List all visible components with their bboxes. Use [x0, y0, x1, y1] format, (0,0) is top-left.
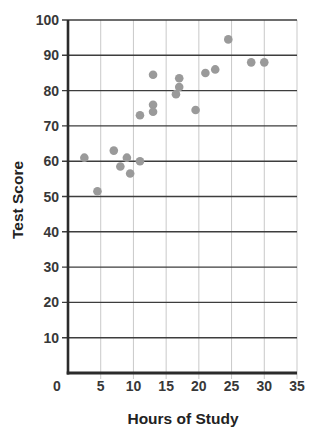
data-point [136, 157, 145, 166]
data-point [201, 69, 210, 78]
x-tick-label: 5 [97, 378, 105, 394]
data-point [93, 187, 102, 196]
data-point [211, 65, 220, 74]
y-tick-label: 20 [43, 294, 59, 310]
y-tick-label: 60 [43, 153, 59, 169]
data-point [149, 107, 158, 116]
y-axis-title: Test Score [9, 161, 27, 239]
x-tick-label: 10 [126, 378, 142, 394]
x-tick-label: 25 [224, 378, 240, 394]
data-point [136, 111, 145, 120]
y-tick-label: 90 [43, 47, 59, 63]
y-tick-label: 10 [43, 330, 59, 346]
data-point [126, 169, 135, 178]
data-point [175, 83, 184, 92]
y-tick-label: 50 [43, 189, 59, 205]
scatter-chart-figure: 10203040506070809010005101520253035 Test… [0, 0, 311, 441]
data-point [123, 153, 132, 162]
x-tick-label: 30 [256, 378, 272, 394]
y-tick-label: 30 [43, 259, 59, 275]
data-point [149, 70, 158, 79]
x-tick-label: 0 [53, 378, 61, 394]
data-point [80, 153, 89, 162]
y-tick-label: 40 [43, 224, 59, 240]
y-tick-label: 70 [43, 118, 59, 134]
x-axis-title: Hours of Study [127, 410, 238, 428]
data-point [247, 58, 256, 67]
data-point [191, 106, 200, 115]
data-point [175, 74, 184, 83]
data-point [116, 162, 125, 171]
y-tick-label: 80 [43, 83, 59, 99]
data-point [260, 58, 269, 67]
x-tick-label: 35 [289, 378, 305, 394]
plot-area: 10203040506070809010005101520253035 [0, 0, 311, 441]
x-tick-label: 20 [191, 378, 207, 394]
data-point [110, 146, 119, 155]
data-point [224, 35, 233, 44]
y-tick-label: 100 [36, 12, 60, 28]
x-tick-label: 15 [158, 378, 174, 394]
